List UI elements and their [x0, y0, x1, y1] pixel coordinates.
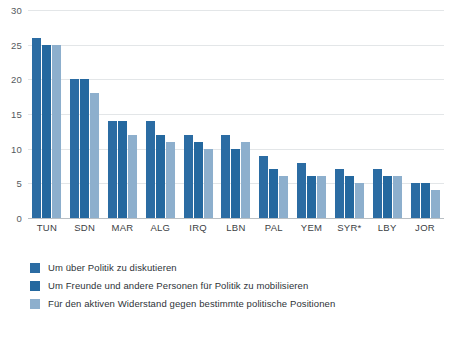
bar: [80, 79, 89, 218]
bar: [128, 135, 137, 218]
bar: [279, 176, 288, 218]
legend-swatch-icon: [30, 263, 40, 273]
bar-group: [406, 10, 444, 218]
bar: [431, 190, 440, 218]
bar: [269, 169, 278, 218]
bar: [317, 176, 326, 218]
y-tick-label: 30: [11, 5, 22, 16]
bar: [335, 169, 344, 218]
y-tick-label: 0: [17, 213, 22, 224]
bar-group: [66, 10, 104, 218]
plot-area: 051015202530 TUNSDNMARALGIRQLBNPALYEMSYR…: [0, 0, 452, 250]
bar: [184, 135, 193, 218]
bar: [52, 45, 61, 218]
x-tick-label: SYR*: [331, 222, 369, 233]
bar-group: [255, 10, 293, 218]
bar-group: [293, 10, 331, 218]
x-tick-label: SDN: [66, 222, 104, 233]
bar: [307, 176, 316, 218]
bar-group: [217, 10, 255, 218]
y-tick-label: 15: [11, 109, 22, 120]
y-tick-label: 20: [11, 74, 22, 85]
legend-label: Um über Politik zu diskutieren: [48, 262, 177, 273]
bar: [241, 142, 250, 218]
bar-group: [104, 10, 142, 218]
bar: [42, 45, 51, 218]
bar: [90, 93, 99, 218]
bar: [221, 135, 230, 218]
x-tick-label: IRQ: [179, 222, 217, 233]
x-axis: TUNSDNMARALGIRQLBNPALYEMSYR*LBYJOR: [28, 222, 444, 233]
legend-label: Um Freunde und andere Personen für Polit…: [48, 280, 308, 291]
legend-swatch-icon: [30, 281, 40, 291]
bar-groups: [28, 10, 444, 218]
y-tick-label: 5: [17, 178, 22, 189]
bar: [118, 121, 127, 218]
bar: [355, 183, 364, 218]
bar-group: [28, 10, 66, 218]
bar: [146, 121, 155, 218]
x-tick-label: ALG: [141, 222, 179, 233]
x-tick-label: JOR: [406, 222, 444, 233]
x-tick-label: PAL: [255, 222, 293, 233]
plot-canvas: [28, 10, 444, 218]
bar: [32, 38, 41, 218]
legend-swatch-icon: [30, 299, 40, 309]
bar: [411, 183, 420, 218]
bar-group: [368, 10, 406, 218]
bar: [421, 183, 430, 218]
bar-chart: 051015202530 TUNSDNMARALGIRQLBNPALYEMSYR…: [0, 0, 452, 342]
bar: [156, 135, 165, 218]
x-tick-label: LBY: [368, 222, 406, 233]
y-tick-label: 10: [11, 143, 22, 154]
legend-label: Für den aktiven Widerstand gegen bestimm…: [48, 298, 335, 309]
bar: [373, 169, 382, 218]
x-tick-label: TUN: [28, 222, 66, 233]
y-tick-label: 25: [11, 39, 22, 50]
legend-item[interactable]: Für den aktiven Widerstand gegen bestimm…: [30, 298, 335, 309]
bar: [259, 156, 268, 218]
bar: [70, 79, 79, 218]
x-tick-label: LBN: [217, 222, 255, 233]
chart-legend: Um über Politik zu diskutierenUm Freunde…: [30, 262, 335, 309]
x-tick-label: MAR: [104, 222, 142, 233]
bar: [297, 163, 306, 218]
bar-group: [331, 10, 369, 218]
legend-item[interactable]: Um über Politik zu diskutieren: [30, 262, 335, 273]
bar: [194, 142, 203, 218]
bar-group: [179, 10, 217, 218]
axis-baseline: [28, 218, 444, 219]
bar: [204, 149, 213, 218]
x-tick-label: YEM: [293, 222, 331, 233]
bar: [231, 149, 240, 218]
bar: [108, 121, 117, 218]
bar: [345, 176, 354, 218]
legend-item[interactable]: Um Freunde und andere Personen für Polit…: [30, 280, 335, 291]
bar: [383, 176, 392, 218]
bar: [166, 142, 175, 218]
bar-group: [141, 10, 179, 218]
bar: [393, 176, 402, 218]
y-axis: 051015202530: [0, 0, 26, 218]
